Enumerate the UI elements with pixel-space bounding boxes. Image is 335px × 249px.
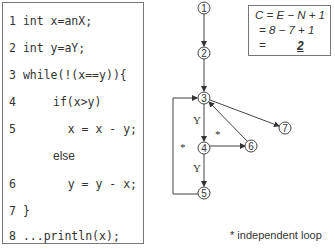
node-1-label: 1 [201, 3, 207, 14]
independent-loop-marker-2: * [180, 141, 186, 153]
formula-eq: = [259, 39, 266, 51]
node-4-label: 4 [201, 143, 207, 154]
footnote-independent-loop: * independent loop [230, 229, 322, 241]
node-6-label: 6 [248, 141, 254, 152]
independent-loop-marker-1: * [215, 128, 221, 140]
node-3-label: 3 [201, 93, 207, 104]
node-7-label: 7 [282, 123, 288, 134]
edge-5-3 [173, 98, 198, 194]
edge-label-yes-3-4: Y [193, 114, 201, 126]
node-5-label: 5 [201, 188, 207, 199]
complexity-formula: C = E − N + 1 = 8 − 7 + 1 = 2 [248, 5, 331, 56]
node-2-label: 2 [201, 48, 207, 59]
formula-line-2: = 8 − 7 + 1 [259, 24, 314, 36]
edge-label-yes-4-5: Y [193, 162, 201, 174]
formula-result: 2 [297, 39, 304, 53]
formula-line-1: C = E − N + 1 [255, 9, 325, 21]
